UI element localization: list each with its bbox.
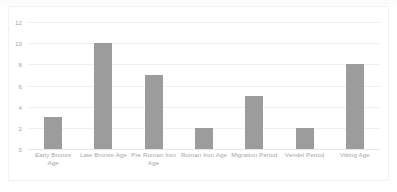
bar — [145, 75, 163, 149]
x-axis-tick-label: Viking Age — [331, 151, 379, 159]
bar — [245, 96, 263, 149]
x-axis-tick: Roman Iron Age — [179, 151, 229, 179]
y-axis-tick-label: 8 — [18, 61, 22, 68]
bar-chart-figure: 024681012 Early Bronze AgeLate Bronze Ag… — [0, 0, 397, 192]
x-axis-tick: Pre Roman Iron Age — [129, 151, 179, 179]
bar-slot — [129, 22, 179, 149]
bar-slot — [28, 22, 78, 149]
x-axis-tick: Early Bronze Age — [28, 151, 78, 179]
x-axis-tick-label: Late Bronze Age — [79, 151, 127, 159]
bar-slot — [229, 22, 279, 149]
y-axis-tick-label: 4 — [18, 103, 22, 110]
bar-series — [28, 22, 380, 149]
x-axis-tick: Migration Period — [229, 151, 279, 179]
y-axis-tick-label: 12 — [15, 19, 22, 26]
bar-slot — [279, 22, 329, 149]
x-axis: Early Bronze AgeLate Bronze AgePre Roman… — [28, 151, 380, 179]
x-axis-tick-label: Vendel Period — [280, 151, 328, 159]
x-axis-tick-label: Roman Iron Age — [180, 151, 228, 159]
y-axis-tick-label: 6 — [18, 82, 22, 89]
bar-slot — [78, 22, 128, 149]
x-axis-tick: Viking Age — [330, 151, 380, 179]
y-axis-tick-label: 10 — [15, 40, 22, 47]
bar — [346, 64, 364, 149]
bar-slot — [330, 22, 380, 149]
bar-slot — [179, 22, 229, 149]
y-axis: 024681012 — [0, 22, 26, 149]
gridline — [28, 149, 380, 150]
bar — [44, 117, 62, 149]
bar — [94, 43, 112, 149]
y-axis-tick-label: 0 — [18, 146, 22, 153]
x-axis-tick: Late Bronze Age — [78, 151, 128, 179]
y-axis-tick-label: 2 — [18, 124, 22, 131]
bar — [296, 128, 314, 149]
x-axis-tick-label: Pre Roman Iron Age — [130, 151, 178, 168]
bar — [195, 128, 213, 149]
x-axis-tick: Vendel Period — [279, 151, 329, 179]
x-axis-tick-label: Early Bronze Age — [29, 151, 77, 168]
x-axis-tick-label: Migration Period — [230, 151, 278, 159]
